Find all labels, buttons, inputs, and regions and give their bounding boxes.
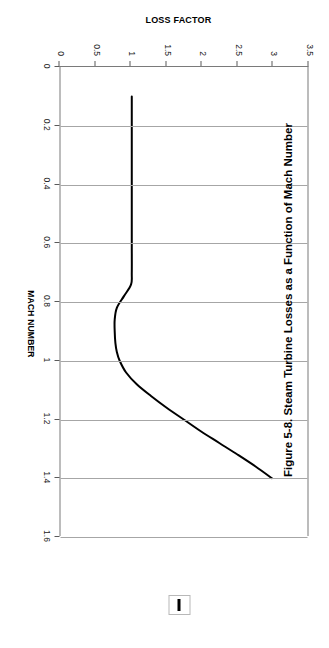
- gridline-x-1.6: [60, 537, 307, 538]
- series-1-swatch: [178, 599, 181, 611]
- x-tick-label-1.6: 1.6: [41, 521, 51, 551]
- figure-caption: Figure 5-8. Steam Turbine Losses as a Fu…: [282, 0, 294, 600]
- x-tick-label-1: 1: [41, 345, 51, 375]
- x-axis-title: MACH NUMBER: [25, 0, 35, 648]
- x-tick-label-1.4: 1.4: [41, 462, 51, 492]
- gridline-x-0.4: [60, 185, 307, 186]
- y-tick-3.5: [307, 61, 308, 66]
- x-tick-1.6: [54, 536, 59, 537]
- x-tick-label-0: 0: [41, 51, 51, 81]
- x-tick-label-1.2: 1.2: [41, 404, 51, 434]
- gridline-x-0.2: [60, 126, 307, 127]
- gridline-x-0.8: [60, 302, 307, 303]
- y-tick-0.5: [94, 61, 95, 66]
- gridline-x-1.4: [60, 478, 307, 479]
- y-tick-label-1.5: 1.5: [162, 30, 172, 56]
- y-tick-label-1: 1: [126, 30, 136, 56]
- plot-area: [59, 66, 308, 536]
- x-tick-label-0.2: 0.2: [41, 110, 51, 140]
- x-tick-label-0.6: 0.6: [41, 227, 51, 257]
- x-tick-1.4: [54, 477, 59, 478]
- x-tick-label-0.4: 0.4: [41, 169, 51, 199]
- y-tick-label-0.5: 0.5: [91, 30, 101, 56]
- x-tick-0.4: [54, 184, 59, 185]
- x-tick-1: [54, 360, 59, 361]
- x-tick-0.6: [54, 242, 59, 243]
- x-tick-0: [54, 66, 59, 67]
- y-tick-label-3: 3: [268, 30, 278, 56]
- series-line-loss-factor: [114, 96, 271, 478]
- y-tick-1: [129, 61, 130, 66]
- x-tick-0.2: [54, 125, 59, 126]
- gridline-x-1.2: [60, 420, 307, 421]
- y-axis-title: LOSS FACTOR: [118, 15, 238, 25]
- chart-legend: [168, 595, 190, 615]
- y-tick-label-2.5: 2.5: [233, 30, 243, 56]
- x-tick-1.2: [54, 419, 59, 420]
- x-tick-label-0.8: 0.8: [41, 286, 51, 316]
- y-tick-label-0: 0: [55, 30, 65, 56]
- y-tick-label-2: 2: [197, 30, 207, 56]
- gridline-x-0.6: [60, 243, 307, 244]
- y-tick-3: [271, 61, 272, 66]
- y-tick-0: [58, 61, 59, 66]
- y-tick-1.5: [165, 61, 166, 66]
- y-tick-2.5: [236, 61, 237, 66]
- y-tick-label-3.5: 3.5: [304, 30, 314, 56]
- rotated-figure: MACH NUMBER LOSS FACTOR 00.20.40.60.811.…: [0, 0, 329, 648]
- x-tick-0.8: [54, 301, 59, 302]
- y-tick-2: [200, 61, 201, 66]
- gridline-x-1: [60, 361, 307, 362]
